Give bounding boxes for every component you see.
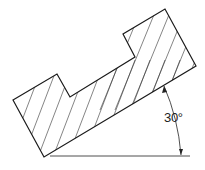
arrowhead-top-icon xyxy=(162,86,167,93)
arrowhead-bottom-icon xyxy=(179,149,183,155)
tilted-block-diagram xyxy=(0,0,205,170)
angle-label: 30° xyxy=(164,110,183,125)
block-outline xyxy=(13,9,196,157)
